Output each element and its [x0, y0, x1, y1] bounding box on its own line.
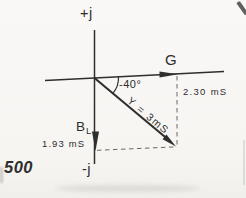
susceptance-value-label: 1.93 mS: [42, 139, 85, 149]
positive-j-axis-label: +j: [80, 6, 93, 21]
negative-j-axis-label: -j: [82, 162, 91, 177]
scan-edge-mark-right: [243, 140, 245, 185]
scan-edge-mark-left: [0, 167, 3, 183]
scan-smudge: [55, 185, 200, 192]
angle-arc: [113, 77, 119, 94]
page-number: 500: [4, 159, 33, 176]
conductance-arrowhead-icon: [160, 72, 179, 78]
susceptance-symbol-subscript: L: [86, 125, 91, 136]
conductance-axis-label: G: [165, 52, 177, 67]
axes-and-vectors-canvas: [0, 0, 246, 198]
susceptance-symbol-label: BL: [76, 120, 91, 136]
susceptance-arrowhead-icon: [92, 132, 99, 152]
phase-angle-label: -40°: [119, 79, 141, 90]
admittance-phasor-diagram: +j -j G -40° Y = 3mS 2.30 mS BL 1.93 mS …: [0, 0, 246, 198]
conductance-value-label: 2.30 mS: [183, 87, 227, 97]
horizontal-projection-dashed-line: [97, 147, 177, 151]
susceptance-symbol-base: B: [76, 119, 85, 134]
